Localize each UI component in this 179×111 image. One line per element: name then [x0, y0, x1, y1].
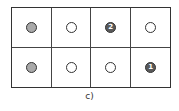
filled-circle-icon — [26, 62, 37, 73]
grid-cell — [131, 8, 171, 48]
filled-circle-icon — [26, 22, 37, 33]
grid: 2 1 — [11, 7, 171, 88]
grid-cell — [91, 48, 131, 88]
grid-cell — [12, 48, 52, 88]
grid-cell: 2 — [91, 8, 131, 48]
numbered-circle-icon: 1 — [145, 62, 156, 73]
grid-cell — [52, 8, 92, 48]
empty-circle-icon — [66, 22, 77, 33]
numbered-circle-icon: 2 — [105, 22, 116, 33]
grid-cell — [12, 8, 52, 48]
grid-cell: 1 — [131, 48, 171, 88]
empty-circle-icon — [66, 62, 77, 73]
grid-cell — [52, 48, 92, 88]
empty-circle-icon — [105, 62, 116, 73]
figure-label: c) — [0, 91, 179, 101]
empty-circle-icon — [145, 22, 156, 33]
